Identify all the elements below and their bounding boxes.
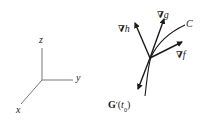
z-axis-label: z [39, 35, 43, 45]
nabla-symbol: ∇ [157, 10, 164, 20]
curve-c-label: C [186, 19, 193, 29]
grad-f-label: ∇f [176, 45, 186, 61]
x-axis-label: x [16, 105, 20, 115]
y-axis-label: y [76, 73, 80, 83]
figure: z y x ∇h ∇g C ∇f G′(t0) [0, 0, 204, 120]
nabla-symbol: ∇ [118, 24, 125, 34]
diagram-lines [0, 0, 204, 120]
tangent-label: G′(t0) [108, 95, 130, 113]
nabla-symbol: ∇ [176, 50, 183, 60]
grad-h-label: ∇h [118, 19, 130, 35]
grad-h-arrow [135, 23, 150, 58]
x-axis-line [21, 80, 42, 104]
grad-g-label: ∇g [157, 5, 169, 21]
coordinate-axes [21, 48, 73, 104]
